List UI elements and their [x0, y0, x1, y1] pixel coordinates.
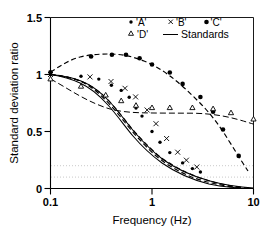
data-point [109, 79, 114, 84]
data-point [133, 103, 138, 108]
data-point [175, 150, 180, 155]
legend-label-b: 'B' [176, 17, 187, 28]
data-point [184, 158, 189, 163]
data-point [180, 82, 185, 87]
data-point [154, 121, 159, 126]
series-c [48, 53, 248, 172]
y-tick-label-1.5: 1.5 [27, 12, 42, 24]
data-point [167, 105, 172, 110]
data-point [48, 70, 53, 75]
legend-label-a: 'A' [136, 17, 147, 28]
y-tick-label-0: 0 [36, 183, 42, 195]
legend-marker-c-icon [204, 20, 209, 25]
data-point [110, 84, 113, 87]
data-point [103, 92, 108, 97]
data-point [199, 170, 202, 173]
series-b-line [51, 75, 251, 189]
x-axis-ticks [51, 189, 254, 195]
data-point [48, 76, 53, 81]
data-point [137, 56, 142, 61]
series-b [48, 72, 250, 188]
y-tick-labels: 1.5 1 0.5 0 [27, 12, 42, 195]
data-point [110, 53, 115, 58]
data-point [190, 105, 195, 110]
legend-label-d: 'D' [137, 29, 148, 40]
x-tick-label-1: 1 [149, 196, 155, 208]
legend-marker-d-icon [129, 31, 134, 35]
legend-marker-b-icon [169, 20, 173, 24]
data-point [168, 151, 171, 154]
series-a [49, 73, 243, 188]
data-point [89, 54, 94, 59]
chart-canvas: 1.5 1 0.5 0 0.1 1 10 Frequency (Hz) Stan… [0, 0, 278, 234]
legend: 'A' 'B' 'C' 'D' Standards [129, 17, 229, 41]
data-point [221, 127, 226, 132]
data-point [181, 161, 184, 164]
chart-figure: 1.5 1 0.5 0 0.1 1 10 Frequency (Hz) Stan… [0, 0, 278, 234]
legend-label-c: 'C' [211, 17, 222, 28]
legend-label-standards: Standards [181, 28, 229, 40]
data-point [140, 114, 143, 117]
data-point [236, 154, 241, 159]
data-point [149, 105, 154, 110]
data-point [123, 86, 128, 91]
data-point [150, 130, 153, 133]
data-point [158, 141, 161, 144]
data-point [88, 74, 93, 79]
legend-marker-a-icon [129, 20, 132, 23]
data-point [164, 136, 169, 141]
plot-frame [51, 18, 254, 189]
y-axis-ticks [45, 18, 51, 189]
data-point [191, 167, 194, 170]
data-point [128, 96, 131, 99]
data-point [133, 94, 138, 99]
data-point [251, 116, 256, 121]
data-point [97, 77, 100, 80]
series-d [48, 76, 256, 124]
x-tick-labels: 0.1 1 10 [43, 196, 260, 208]
data-point [79, 75, 82, 78]
data-point [124, 53, 129, 58]
data-point [119, 98, 124, 103]
x-tick-label-10: 10 [247, 196, 259, 208]
series-a-line [51, 75, 244, 189]
reference-lines [51, 166, 253, 177]
y-tick-label-0.5: 0.5 [27, 126, 42, 138]
y-tick-label-1: 1 [36, 69, 42, 81]
data-point [198, 95, 203, 100]
data-point [211, 106, 216, 111]
data-point [168, 70, 173, 75]
data-point [228, 110, 233, 115]
x-tick-label-0.1: 0.1 [43, 196, 58, 208]
data-point [150, 62, 155, 67]
data-point [194, 165, 199, 170]
y-axis-title: Standard deviation ratio [8, 42, 20, 163]
x-axis-title: Frequency (Hz) [112, 214, 191, 226]
